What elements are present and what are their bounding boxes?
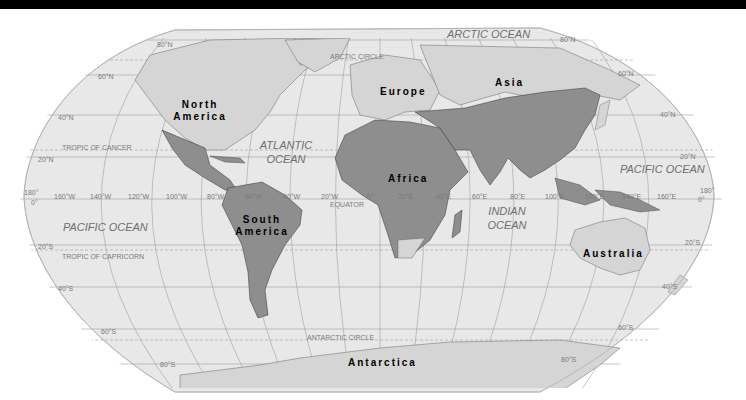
label-africa: Africa	[388, 174, 428, 184]
lon-label-0: 0°	[367, 193, 374, 200]
label-atlantic-line1: ATLANTIC	[254, 140, 318, 151]
label-atlantic-line2: OCEAN	[254, 154, 318, 165]
lon-label-180-east: 180°	[700, 187, 714, 194]
label-australia: Australia	[583, 249, 644, 259]
label-arctic-ocean: ARCTIC OCEAN	[447, 29, 530, 40]
label-south-america-line1: South	[232, 215, 292, 225]
label-europe: Europe	[380, 87, 426, 97]
lon-label-160e: 160°E	[657, 193, 676, 200]
label-tropic-of-capricorn: TROPIC OF CAPRICORN	[62, 253, 144, 260]
lon-label-80e: 80°E	[510, 193, 525, 200]
lat-label-60s-west: 60°S	[101, 328, 116, 335]
lat-label-20s-east: 20°S	[685, 239, 700, 246]
lat-label-20n-east: 20°N	[680, 153, 696, 160]
label-asia: Asia	[495, 78, 524, 88]
lon-label-100w: 100°W	[166, 193, 187, 200]
label-tropic-of-cancer: TROPIC OF CANCER	[62, 144, 132, 151]
lon-label-60w: 60°W	[245, 193, 262, 200]
label-south-america-line2: America	[232, 227, 292, 237]
lon-label-20e: 20°E	[398, 193, 413, 200]
lat-label-80n-west: 80°N	[157, 41, 173, 48]
lat-label-40s-west: 40°S	[58, 285, 73, 292]
lon-label-120e: 120°E	[585, 193, 604, 200]
lat-label-40n-west: 40°N	[58, 114, 74, 121]
label-south-america: South America	[232, 215, 292, 237]
lon-label-40e: 40°E	[436, 193, 451, 200]
lat-label-60s-east: 60°S	[618, 324, 633, 331]
label-north-america-line2: America	[170, 112, 230, 122]
lon-label-140e: 140°E	[622, 193, 641, 200]
label-indian-ocean: INDIAN OCEAN	[482, 206, 532, 231]
lon-label-100e: 100°E	[545, 193, 564, 200]
label-north-america: North America	[170, 100, 230, 122]
label-north-america-line1: North	[170, 100, 230, 110]
lon-label-20w: 20°W	[321, 193, 338, 200]
lat-label-60n-west: 60°N	[98, 73, 114, 80]
label-atlantic-ocean: ATLANTIC OCEAN	[254, 140, 318, 165]
lon-label-60e: 60°E	[472, 193, 487, 200]
lat-label-40n-east: 40°N	[660, 111, 676, 118]
lat-label-40s-east: 40°S	[662, 283, 677, 290]
lon-label-180-west: 180°	[24, 189, 38, 196]
label-antarctic-circle: ANTARCTIC CIRCLE	[307, 334, 374, 341]
lon-label-140w: 140°W	[90, 193, 111, 200]
label-arctic-circle: ARCTIC CIRCLE	[330, 53, 384, 60]
label-pacific-ocean-east: PACIFIC OCEAN	[620, 164, 705, 175]
label-indian-line2: OCEAN	[482, 220, 532, 231]
lat-label-60n-east: 60°N	[618, 70, 634, 77]
label-equator: EQUATOR	[330, 201, 364, 208]
lon-label-40w: 40°W	[283, 193, 300, 200]
label-indian-line1: INDIAN	[482, 206, 532, 217]
lon-label-80w: 80°W	[207, 193, 224, 200]
lat-label-80s-west: 80°S	[160, 361, 175, 368]
lat-label-0-west: 0°	[31, 199, 38, 206]
lon-label-160w: 160°W	[54, 193, 75, 200]
lat-label-20n-west: 20°N	[38, 156, 54, 163]
lat-label-20s-west: 20°S	[38, 243, 53, 250]
lon-label-120w: 120°W	[128, 193, 149, 200]
label-antarctica: Antarctica	[348, 358, 417, 368]
lat-label-0-east: 0°	[698, 196, 705, 203]
lat-label-80n-east: 80°N	[560, 36, 576, 43]
lat-label-80s-east: 80°S	[561, 356, 576, 363]
label-pacific-ocean-west: PACIFIC OCEAN	[63, 222, 148, 233]
